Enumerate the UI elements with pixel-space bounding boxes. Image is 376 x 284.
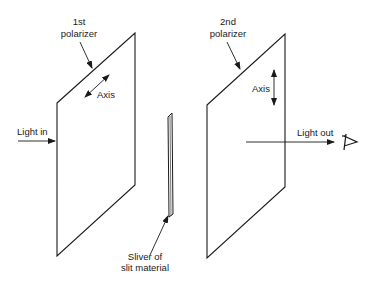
sliver-label-line2: slit material — [121, 262, 169, 273]
second-polarizer-pointer — [227, 42, 240, 69]
sliver-pointer — [150, 216, 168, 255]
light-out-label: Light out — [297, 127, 334, 138]
sliver-edge — [170, 116, 171, 216]
first-polarizer — [57, 33, 135, 256]
second-polarizer — [207, 34, 285, 258]
first-polarizer-pointer — [80, 42, 92, 68]
sliver-label-line1: Sliver of — [128, 251, 163, 262]
second-polarizer-label-line1: 2nd — [220, 16, 236, 27]
first-axis-label: Axis — [97, 89, 115, 100]
eye-icon — [342, 134, 357, 150]
second-polarizer-label-line2: polarizer — [210, 28, 246, 39]
first-polarizer-label-line2: polarizer — [61, 28, 97, 39]
light-in-label: Light in — [17, 126, 48, 137]
second-axis-label: Axis — [252, 83, 270, 94]
first-polarizer-label-line1: 1st — [73, 16, 86, 27]
polarizer-diagram: 1st polarizer Axis Light in Sliver of sl… — [0, 0, 376, 284]
